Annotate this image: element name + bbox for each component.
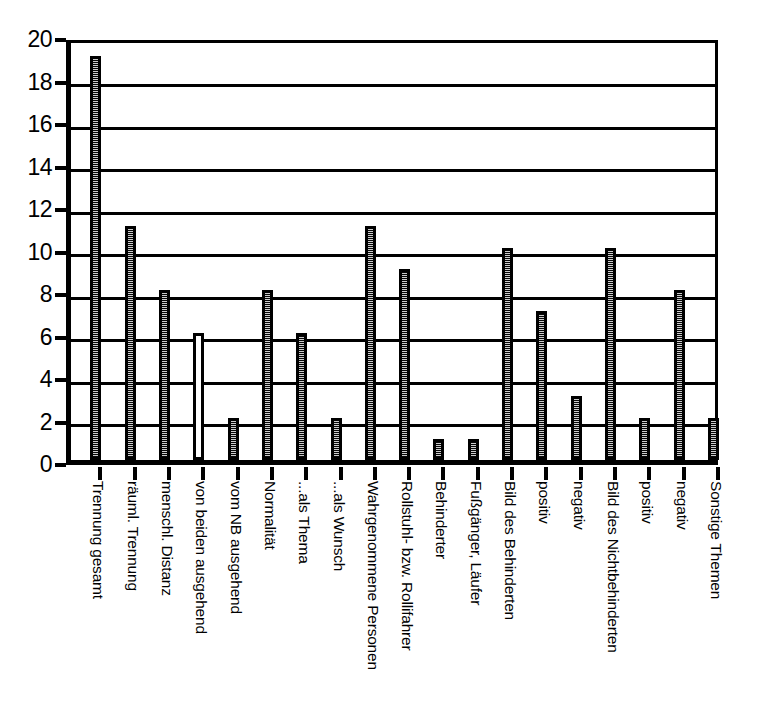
y-tick-label: 4 <box>40 366 52 392</box>
x-tick-label: Bild des Behinderten <box>503 481 518 620</box>
y-tick-mark <box>55 166 66 170</box>
x-tick-mark <box>716 467 720 480</box>
y-tick-label: 14 <box>27 154 52 180</box>
x-tick-label: Rollstuhl- bzw. Rollifahrer <box>400 481 415 650</box>
y-tick-label: 10 <box>27 239 52 265</box>
x-tick-mark <box>201 467 205 480</box>
x-tick-label: ...als Wunsch <box>332 481 347 571</box>
x-tick-label: Normalität <box>263 481 278 550</box>
y-tick-mark <box>55 421 66 425</box>
x-tick-mark <box>613 467 617 480</box>
bar <box>433 439 444 460</box>
bar <box>674 290 685 460</box>
bar <box>262 290 273 460</box>
x-tick-mark <box>167 467 171 480</box>
x-tick-mark <box>510 467 514 480</box>
bar <box>125 226 136 460</box>
x-tick-label: Behinderter <box>434 481 449 559</box>
x-tick-mark <box>304 467 308 480</box>
x-tick-mark <box>579 467 583 480</box>
bar <box>571 396 582 460</box>
x-tick-label: vom NB ausgehend <box>229 481 244 614</box>
y-tick-mark <box>55 293 66 297</box>
x-tick-label: negativ <box>675 481 690 530</box>
bar <box>296 333 307 461</box>
x-tick-label: Sonstige Themen <box>709 481 724 599</box>
x-tick-mark <box>544 467 548 480</box>
x-tick-mark <box>133 467 137 480</box>
bar-chart: 20181614121086420 Trennung gesamträuml. … <box>0 0 760 701</box>
bar <box>605 248 616 461</box>
y-tick-label: 8 <box>40 281 52 307</box>
bar <box>90 56 101 460</box>
bars-layer <box>71 43 715 460</box>
bar <box>639 418 650 461</box>
x-tick-label: Wahrgenommene Personen <box>366 481 381 670</box>
y-tick-mark <box>55 123 66 127</box>
x-tick-mark <box>339 467 343 480</box>
x-tick-label: Fußgänger, Läufer <box>469 481 484 605</box>
x-tick-mark <box>476 467 480 480</box>
x-axis-ticks <box>0 465 760 481</box>
x-tick-mark <box>682 467 686 480</box>
y-tick-label: 20 <box>27 26 52 52</box>
y-tick-mark <box>55 336 66 340</box>
x-tick-label: von beiden ausgehend <box>194 481 209 634</box>
y-tick-label: 2 <box>40 409 52 435</box>
bar <box>365 226 376 460</box>
x-tick-mark <box>441 467 445 480</box>
bar <box>536 311 547 460</box>
x-tick-label: menschl. Distanz <box>160 481 175 596</box>
x-tick-label: negativ <box>572 481 587 530</box>
bar <box>193 333 204 461</box>
y-tick-mark <box>55 251 66 255</box>
y-tick-label: 18 <box>27 69 52 95</box>
y-tick-mark <box>55 208 66 212</box>
x-axis-labels: Trennung gesamträuml. Trennungmenschl. D… <box>0 481 760 696</box>
x-tick-label: ...als Thema <box>297 481 312 564</box>
bar <box>468 439 479 460</box>
bar <box>708 418 719 461</box>
x-tick-mark <box>407 467 411 480</box>
x-tick-mark <box>373 467 377 480</box>
x-tick-label: Bild des Nichtbehinderten <box>606 481 621 653</box>
x-tick-mark <box>98 467 102 480</box>
bar <box>502 248 513 461</box>
y-tick-mark <box>55 81 66 85</box>
x-tick-label: räuml. Trennung <box>126 481 141 591</box>
x-tick-mark <box>270 467 274 480</box>
x-tick-label: positiv <box>537 481 552 524</box>
y-tick-label: 12 <box>27 196 52 222</box>
x-tick-mark <box>647 467 651 480</box>
bar <box>331 418 342 461</box>
bar <box>228 418 239 461</box>
y-tick-label: 6 <box>40 324 52 350</box>
y-tick-mark <box>55 378 66 382</box>
plot-area <box>66 40 718 465</box>
y-tick-label: 16 <box>27 111 52 137</box>
x-tick-mark <box>236 467 240 480</box>
bar <box>159 290 170 460</box>
bar <box>399 269 410 460</box>
y-tick-mark <box>55 38 66 42</box>
x-tick-label: Trennung gesamt <box>91 481 106 599</box>
x-tick-label: positiv <box>640 481 655 524</box>
